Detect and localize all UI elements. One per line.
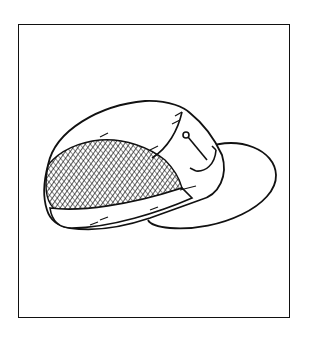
cap-illustration [0,0,311,343]
